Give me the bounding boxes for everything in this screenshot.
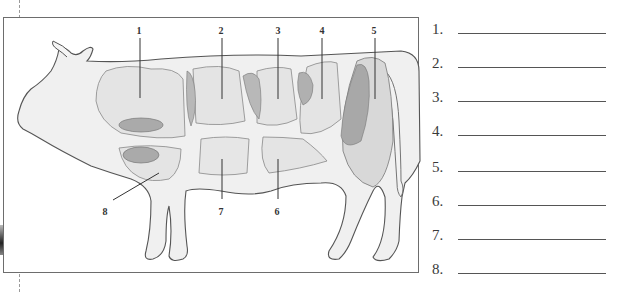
answer-number: 6. bbox=[432, 193, 443, 210]
answer-row-3: 3. bbox=[426, 89, 624, 109]
answer-blank-5[interactable] bbox=[458, 171, 606, 172]
answer-blank-1[interactable] bbox=[458, 33, 606, 34]
answer-blank-3[interactable] bbox=[458, 101, 606, 102]
answer-row-7: 7. bbox=[426, 227, 624, 247]
cut-label-2: 2 bbox=[219, 25, 224, 36]
answer-row-6: 6. bbox=[426, 193, 624, 213]
answer-blank-4[interactable] bbox=[458, 135, 606, 136]
cow-diagram-frame: 1 2 3 4 5 6 7 8 bbox=[3, 17, 419, 273]
cut-label-4: 4 bbox=[320, 25, 325, 36]
cut-label-1: 1 bbox=[137, 25, 142, 36]
cut-label-8: 8 bbox=[103, 206, 108, 217]
answer-blank-8[interactable] bbox=[458, 273, 606, 274]
answer-list: 1. 2. 3. 4. 5. 6. 7. 8. bbox=[426, 0, 624, 292]
answer-number: 4. bbox=[432, 123, 443, 140]
answer-row-5: 5. bbox=[426, 159, 624, 179]
answer-row-2: 2. bbox=[426, 55, 624, 75]
answer-number: 5. bbox=[432, 159, 443, 176]
answer-row-1: 1. bbox=[426, 21, 624, 41]
answer-number: 7. bbox=[432, 227, 443, 244]
answer-number: 1. bbox=[432, 21, 443, 38]
cut-label-3: 3 bbox=[276, 25, 281, 36]
cut-label-5: 5 bbox=[372, 25, 377, 36]
cut-label-7: 7 bbox=[219, 206, 224, 217]
answer-number: 3. bbox=[432, 89, 443, 106]
answer-blank-7[interactable] bbox=[458, 239, 606, 240]
answer-number: 8. bbox=[432, 261, 443, 278]
answer-row-8: 8. bbox=[426, 261, 624, 281]
answer-number: 2. bbox=[432, 55, 443, 72]
answer-row-4: 4. bbox=[426, 123, 624, 143]
answer-blank-2[interactable] bbox=[458, 67, 606, 68]
answer-blank-6[interactable] bbox=[458, 205, 606, 206]
cut-label-6: 6 bbox=[275, 206, 280, 217]
